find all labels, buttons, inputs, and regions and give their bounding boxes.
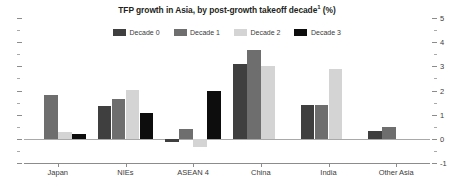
bar (247, 50, 261, 139)
bar (126, 90, 140, 139)
y-axis-tick-right (432, 18, 437, 19)
y-axis-label: -1 (440, 159, 447, 168)
y-axis-label: 4 (440, 38, 444, 47)
y-axis-minor-tick-right (434, 54, 437, 55)
bar (329, 69, 343, 139)
bar (301, 105, 315, 139)
y-axis-minor-tick-left (17, 103, 20, 104)
chart-title-text: TFP growth in Asia, by post-growth takeo… (118, 5, 317, 15)
y-axis-minor-tick-left (17, 54, 20, 55)
bar (44, 95, 58, 139)
y-axis-tick-right (432, 42, 437, 43)
y-axis-minor-tick-left (17, 30, 20, 31)
bar (193, 139, 207, 147)
y-axis-tick-right (432, 139, 437, 140)
y-axis-minor-tick-left (17, 127, 20, 128)
y-axis-tick-right (432, 115, 437, 116)
plot-area (24, 18, 430, 163)
x-axis-tick (126, 163, 127, 167)
x-axis-tick (261, 163, 262, 167)
y-axis-tick-left (17, 139, 22, 140)
y-axis-tick-left (17, 163, 22, 164)
zero-axis-line (24, 139, 430, 140)
bar (261, 66, 275, 139)
y-axis-minor-tick-left (17, 151, 20, 152)
y-axis-tick-left (17, 91, 22, 92)
y-axis-label: 1 (440, 110, 444, 119)
y-axis-minor-tick-right (434, 151, 437, 152)
bottom-axis-line (24, 163, 430, 164)
y-axis-label: 5 (440, 14, 444, 23)
bar (58, 132, 72, 139)
x-axis-tick (193, 163, 194, 167)
bar (165, 139, 179, 142)
y-axis-tick-right (432, 163, 437, 164)
x-axis-tick (329, 163, 330, 167)
bar (140, 113, 154, 139)
bar (72, 134, 86, 139)
y-axis-minor-tick-right (434, 78, 437, 79)
chart-title: TFP growth in Asia, by post-growth takeo… (0, 5, 454, 15)
bar (368, 131, 382, 139)
y-axis-minor-tick-right (434, 103, 437, 104)
bar (112, 99, 126, 139)
x-axis-tick (396, 163, 397, 167)
x-axis-label-india: India (320, 168, 336, 177)
y-axis-tick-left (17, 115, 22, 116)
x-axis-label-asean-4: ASEAN 4 (177, 168, 209, 177)
y-axis-minor-tick-left (17, 78, 20, 79)
y-axis-tick-left (17, 42, 22, 43)
y-axis-minor-tick-right (434, 30, 437, 31)
chart-container: TFP growth in Asia, by post-growth takeo… (0, 0, 454, 181)
bar (382, 127, 396, 139)
y-axis-tick-right (432, 66, 437, 67)
chart-title-units: (%) (321, 5, 336, 15)
y-axis-tick-right (432, 91, 437, 92)
y-axis-label: 0 (440, 134, 444, 143)
x-axis-label-other-asia: Other Asia (379, 168, 414, 177)
bar (315, 105, 329, 139)
x-axis-tick (58, 163, 59, 167)
bar (179, 129, 193, 139)
bar (98, 106, 112, 139)
bar (207, 91, 221, 139)
x-axis-label-japan: Japan (48, 168, 68, 177)
y-axis-minor-tick-right (434, 127, 437, 128)
y-axis-tick-left (17, 66, 22, 67)
bar (233, 64, 247, 139)
y-axis-label: 3 (440, 62, 444, 71)
y-axis-label: 2 (440, 86, 444, 95)
x-axis-label-nies: NIEs (117, 168, 133, 177)
x-axis-label-china: China (251, 168, 271, 177)
y-axis-tick-left (17, 18, 22, 19)
